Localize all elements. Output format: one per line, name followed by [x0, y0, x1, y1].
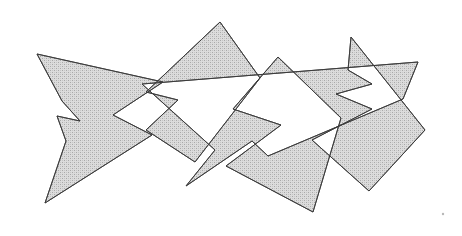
page-corner-mark [442, 213, 444, 215]
polygon-figure [0, 0, 462, 236]
figure-canvas [0, 0, 462, 236]
